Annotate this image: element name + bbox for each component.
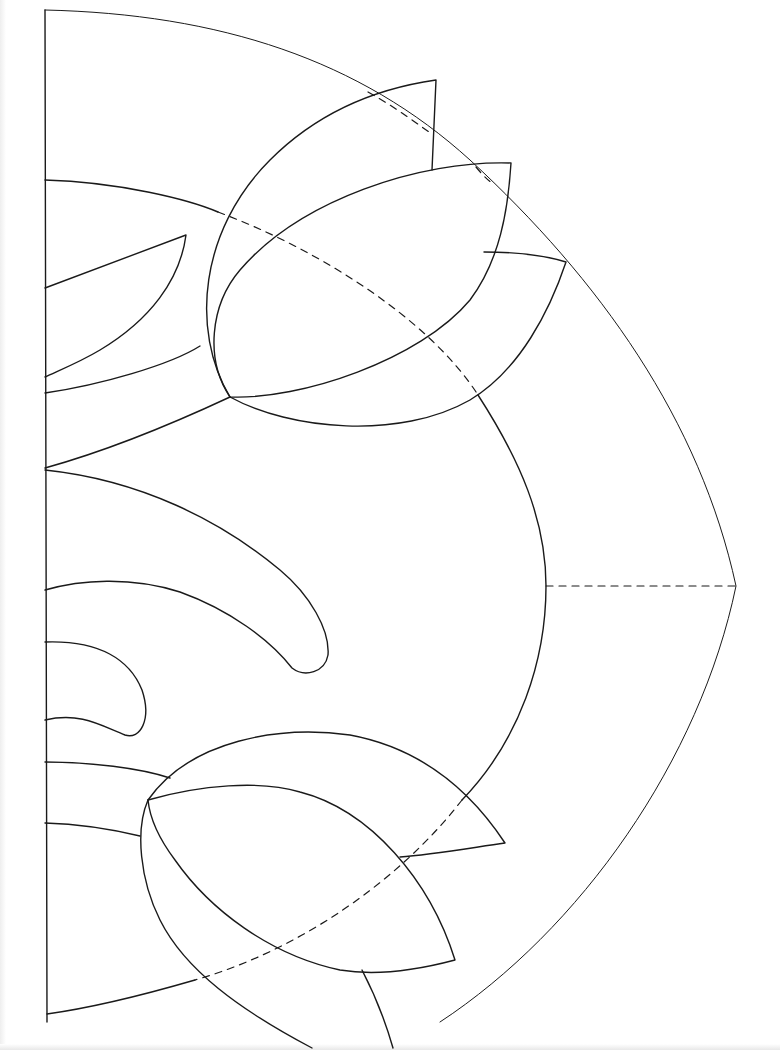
bottom-stem-lower [45, 823, 140, 836]
top-stem-upper [45, 346, 200, 393]
inner-arc-bottom [47, 980, 195, 1014]
top-tulip-center-petal [214, 163, 511, 397]
top-tulip [207, 80, 566, 426]
inner-arc-top-placement-line [218, 212, 478, 395]
inner-arc-middle [462, 395, 546, 800]
bottom-tulip [141, 732, 505, 1048]
bottom-stem-upper [45, 762, 170, 778]
pattern-drawing [0, 0, 780, 1050]
top-tulip-outer-placement-line [368, 92, 432, 134]
top-left-leaf [45, 235, 186, 377]
top-stem-lower [45, 397, 230, 468]
bottom-tulip-outer-petal [148, 732, 505, 857]
top-tulip-right-petal [230, 252, 566, 426]
inner-arc-top [45, 180, 218, 212]
top-tulip-outer-petal [207, 80, 436, 397]
center-fold-line [45, 10, 47, 1022]
bottom-tulip-center-petal [148, 785, 455, 972]
middle-short-leaf [45, 642, 146, 736]
bottom-tulip-left-petal [141, 800, 312, 1048]
bottom-right-curve [362, 970, 393, 1048]
outer-block-arc [45, 10, 736, 1022]
top-tulip-right-placement-line [476, 167, 494, 184]
middle-long-leaf [45, 470, 328, 673]
